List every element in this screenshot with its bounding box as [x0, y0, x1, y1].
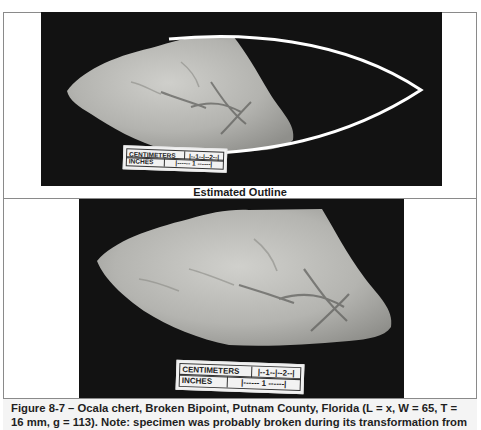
scale-row-inches: INCHES |------ 1 ------| [126, 156, 224, 170]
stone-fragment [97, 209, 391, 346]
panel-label-estimated-outline: Estimated Outline [3, 186, 477, 198]
stone-fragment [67, 36, 293, 153]
scale-label-inches: INCHES [127, 157, 165, 166]
scale-ticks-inches: |------ 1 ------| [165, 159, 223, 169]
scale-ticks-inches: |------ 1 ------| [228, 377, 300, 390]
scale-bar: CENTIMETERS |--1--|--2--| INCHES |------… [176, 360, 305, 394]
scale-label-inches: INCHES [180, 375, 228, 388]
specimen-photo-estimated-outline: CENTIMETERS |--1--|--2--| INCHES |------… [41, 12, 442, 186]
scale-bar: CENTIMETERS |--1--|--2--| INCHES |------… [123, 145, 228, 173]
specimen-image-top [41, 12, 442, 186]
specimen-photo: CENTIMETERS |--1--|--2--| INCHES |------… [79, 199, 404, 398]
figure-caption: Figure 8-7 – Ocala chert, Broken Bipoint… [3, 399, 477, 430]
